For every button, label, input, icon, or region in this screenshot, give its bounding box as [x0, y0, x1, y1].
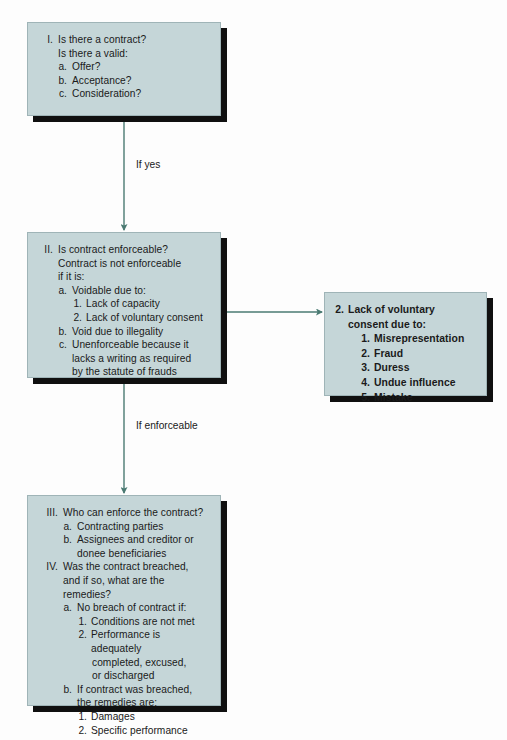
node-line: c.Consideration?: [58, 87, 212, 101]
node-line: a.Offer?: [58, 60, 212, 74]
line-text: Specific performance: [91, 724, 212, 738]
node-line: a.No breach of contract if:: [63, 601, 212, 615]
line-marker: 1.: [78, 710, 91, 724]
line-text: Acceptance?: [72, 74, 212, 88]
line-marker: b.: [58, 74, 72, 88]
node-who-can-enforce-and-remedies[interactable]: III.Who can enforce the contract?a.Contr…: [27, 495, 221, 706]
line-text: Was the contract breached,: [63, 560, 212, 574]
node-line: 2.Lack of voluntary consent: [73, 311, 212, 325]
node-line: consent due to:: [348, 318, 478, 333]
node-line: 5.Mistake: [361, 391, 478, 406]
line-text: Conditions are not met: [91, 615, 212, 629]
line-text: No breach of contract if:: [77, 601, 212, 615]
line-marker: II.: [38, 243, 58, 257]
edge-label-if-yes: If yes: [136, 159, 160, 170]
node-line: 1.Conditions are not met: [78, 615, 212, 629]
node-line: by the statute of frauds: [72, 365, 212, 379]
line-text: Fraud: [374, 347, 478, 362]
line-text: Who can enforce the contract?: [63, 506, 212, 520]
node-line: Is there a valid:: [58, 47, 212, 61]
node-line: 2.Lack of voluntary: [335, 303, 478, 318]
line-marker: IV.: [38, 560, 63, 574]
line-text: completed, excused,: [92, 656, 212, 670]
line-text: Is contract enforceable?: [58, 243, 212, 257]
line-text: lacks a writing as required: [72, 352, 212, 366]
node-body: I.Is there a contract?Is there a valid:a…: [28, 23, 220, 109]
line-marker: a.: [63, 520, 77, 534]
node-line: lacks a writing as required: [72, 352, 212, 366]
line-marker: c.: [58, 87, 72, 101]
line-marker: a.: [58, 60, 72, 74]
line-text: and if so, what are the remedies?: [63, 574, 212, 601]
node-line: b.If contract was breached,: [63, 683, 212, 697]
line-text: Assignees and creditor or: [77, 533, 212, 547]
line-marker: I.: [38, 33, 58, 47]
line-marker: 2.: [73, 311, 86, 325]
node-line: Contract is not enforceable: [58, 257, 212, 271]
line-marker: 1.: [78, 615, 91, 629]
node-line: 4.Undue influence: [361, 376, 478, 391]
line-text: Lack of capacity: [86, 297, 212, 311]
line-text: Lack of voluntary: [348, 303, 478, 318]
line-text: Is there a contract?: [58, 33, 212, 47]
line-marker: b.: [63, 533, 77, 547]
node-line: and if so, what are the remedies?: [63, 574, 212, 601]
line-text: Undue influence: [374, 376, 478, 391]
line-text: Voidable due to:: [72, 284, 212, 298]
line-text: Contract is not enforceable: [58, 257, 212, 271]
line-marker: 1.: [361, 332, 374, 347]
node-line: a.Contracting parties: [63, 520, 212, 534]
edge-label-if-enforceable: If enforceable: [136, 420, 198, 431]
node-line: III.Who can enforce the contract?: [38, 506, 212, 520]
node-line: a.Voidable due to:: [58, 284, 212, 298]
node-line: the remedies are:: [77, 696, 212, 710]
node-line: b.Acceptance?: [58, 74, 212, 88]
line-marker: 2.: [78, 628, 91, 655]
node-line: b.Void due to illegality: [58, 325, 212, 339]
node-line: 1.Damages: [78, 710, 212, 724]
line-marker: 5.: [361, 391, 374, 406]
line-text: the remedies are:: [77, 696, 212, 710]
node-line: 3.Duress: [361, 361, 478, 376]
line-marker: 2.: [78, 724, 91, 738]
line-text: Lack of voluntary consent: [86, 311, 212, 325]
line-text: Void due to illegality: [72, 325, 212, 339]
line-marker: b.: [58, 325, 72, 339]
node-line: IV.Was the contract breached,: [38, 560, 212, 574]
line-marker: c.: [58, 338, 72, 352]
line-marker: b.: [63, 683, 77, 697]
line-text: If contract was breached,: [77, 683, 212, 697]
line-text: Damages: [91, 710, 212, 724]
node-line: 2.Performance is adequately: [78, 628, 212, 655]
line-text: Misrepresentation: [374, 332, 478, 347]
line-text: Duress: [374, 361, 478, 376]
line-text: Mistake: [374, 391, 478, 406]
line-marker: 1.: [73, 297, 86, 311]
line-marker: III.: [38, 506, 63, 520]
line-text: consent due to:: [348, 318, 478, 333]
line-marker: a.: [63, 601, 77, 615]
line-text: donee beneficiaries: [77, 547, 212, 561]
node-line: b.Assignees and creditor or: [63, 533, 212, 547]
node-body: 2.Lack of voluntaryconsent due to:1.Misr…: [325, 293, 486, 413]
node-line: 2.Fraud: [361, 347, 478, 362]
node-line: II.Is contract enforceable?: [38, 243, 212, 257]
node-body: II.Is contract enforceable?Contract is n…: [28, 233, 220, 387]
node-is-there-a-contract[interactable]: I.Is there a contract?Is there a valid:a…: [27, 22, 221, 116]
line-text: Performance is adequately: [91, 628, 212, 655]
line-text: or discharged: [92, 669, 212, 683]
node-line: completed, excused,: [92, 656, 212, 670]
line-marker: 3.: [361, 361, 374, 376]
node-line: if it is:: [58, 270, 212, 284]
node-line: donee beneficiaries: [77, 547, 212, 561]
node-line: I.Is there a contract?: [38, 33, 212, 47]
line-text: Contracting parties: [77, 520, 212, 534]
node-line: 1.Lack of capacity: [73, 297, 212, 311]
line-text: Unenforceable because it: [72, 338, 212, 352]
line-text: if it is:: [58, 270, 212, 284]
node-body: III.Who can enforce the contract?a.Contr…: [28, 496, 220, 740]
line-marker: 4.: [361, 376, 374, 391]
node-lack-of-voluntary-consent[interactable]: 2.Lack of voluntaryconsent due to:1.Misr…: [324, 292, 487, 396]
node-is-contract-enforceable[interactable]: II.Is contract enforceable?Contract is n…: [27, 232, 221, 378]
